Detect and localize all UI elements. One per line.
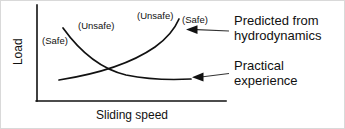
x-axis-title: Sliding speed (37, 109, 227, 122)
callout-practical-experience: Practical experience (234, 59, 298, 88)
callout-predicted-line1: Predicted from (234, 14, 321, 29)
callout-predicted-line2: hydrodynamics (234, 29, 321, 44)
region-label-safe-high: (Safe) (182, 15, 208, 26)
diagram-figure: Load Sliding speed (Safe) (Unsafe) (Unsa… (0, 0, 345, 129)
region-label-unsafe-low: (Unsafe) (78, 21, 114, 32)
y-axis-title: Load (12, 22, 25, 82)
callout-predicted-hydrodynamics: Predicted from hydrodynamics (234, 14, 321, 43)
curve-predicted-hydrodynamics (63, 28, 191, 80)
callout-arrow-practical (192, 72, 229, 81)
callout-arrow-predicted (186, 25, 229, 34)
region-label-safe-low: (Safe) (42, 36, 68, 47)
curve-practical-experience (59, 19, 179, 80)
region-label-unsafe-high: (Unsafe) (137, 11, 173, 22)
callout-practical-line2: experience (234, 74, 298, 89)
callout-practical-line1: Practical (234, 59, 298, 74)
